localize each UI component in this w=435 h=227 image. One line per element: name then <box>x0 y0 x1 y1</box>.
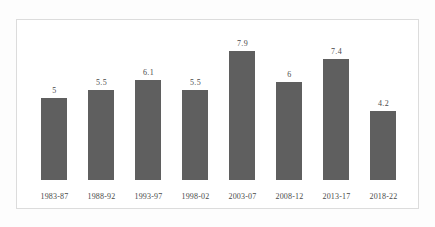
bar-group: 51983-87 <box>31 20 78 208</box>
x-axis-category-label: 1988-92 <box>76 192 127 202</box>
bar-rect[interactable] <box>182 90 208 180</box>
x-axis-category-label: 2003-07 <box>217 192 268 202</box>
bar-rect[interactable] <box>135 80 161 180</box>
bar-rect[interactable] <box>370 111 396 180</box>
bar-group: 4.22018-22 <box>360 20 407 208</box>
bar-value-label: 5 <box>31 86 78 96</box>
bar-value-label: 5.5 <box>172 78 219 88</box>
plot-area: 51983-875.51988-926.11993-975.51998-027.… <box>17 20 418 208</box>
bar-value-label: 4.2 <box>360 99 407 109</box>
bar-value-label: 6 <box>266 70 313 80</box>
x-axis-category-label: 2008-12 <box>264 192 315 202</box>
bar-rect[interactable] <box>88 90 114 180</box>
bar-value-label: 7.9 <box>219 39 266 49</box>
bar-group: 7.92003-07 <box>219 20 266 208</box>
x-axis-category-label: 1998-02 <box>170 192 221 202</box>
bar-group: 5.51998-02 <box>172 20 219 208</box>
bar-rect[interactable] <box>276 82 302 180</box>
bar-value-label: 7.4 <box>313 47 360 57</box>
plot-frame: 51983-875.51988-926.11993-975.51998-027.… <box>16 19 419 209</box>
bar-group: 5.51988-92 <box>78 20 125 208</box>
bar-rect[interactable] <box>41 98 67 180</box>
x-axis-category-label: 1983-87 <box>29 192 80 202</box>
x-axis-category-label: 1993-97 <box>123 192 174 202</box>
bar-rect[interactable] <box>229 51 255 180</box>
bar-group: 6.11993-97 <box>125 20 172 208</box>
bar-group: 62008-12 <box>266 20 313 208</box>
bar-value-label: 5.5 <box>78 78 125 88</box>
x-axis-category-label: 2013-17 <box>311 192 362 202</box>
bar-value-label: 6.1 <box>125 68 172 78</box>
x-axis-category-label: 2018-22 <box>358 192 409 202</box>
bar-group: 7.42013-17 <box>313 20 360 208</box>
bar-chart-figure: 51983-875.51988-926.11993-975.51998-027.… <box>0 0 435 227</box>
bar-rect[interactable] <box>323 59 349 180</box>
